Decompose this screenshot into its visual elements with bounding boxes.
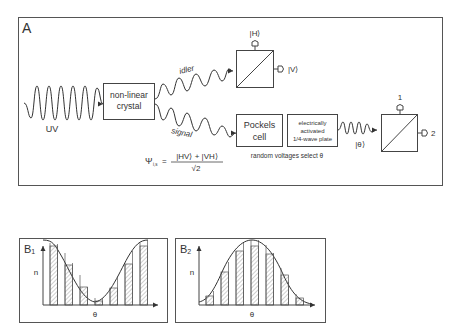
detector-2-icon — [422, 130, 428, 136]
idler-wave — [155, 69, 233, 99]
theta-state-label: |θ⟩ — [355, 140, 365, 149]
pbs1-right-label: |V⟩ — [288, 65, 298, 74]
detector-h-icon — [252, 41, 258, 47]
random-voltages-text: random voltages select θ — [251, 152, 324, 160]
detector-1-icon — [397, 105, 403, 111]
waveplate-label-line2: activated — [300, 128, 324, 134]
pbs1-top-label: |H⟩ — [250, 29, 261, 38]
equation-equals: = — [162, 157, 167, 166]
crystal-label-line2: crystal — [117, 101, 142, 111]
pbs2-right-label: 2 — [431, 129, 436, 138]
waveplate-label-line3: 1/4-wave plate — [293, 136, 333, 142]
uv-label: UV — [46, 124, 59, 134]
equation-numerator: |HV⟩ + |VH⟩ — [176, 152, 218, 161]
crystal-label-line1: non-linear — [110, 90, 148, 100]
signal-label: signal — [171, 126, 194, 139]
panel-b1: B1 n θ — [20, 239, 168, 323]
waveplate-label-line1: electrically — [298, 120, 326, 126]
idler-label: idler — [178, 63, 195, 75]
panel-b1-label: B1 — [24, 243, 35, 255]
equation-denominator: √2 — [192, 164, 201, 173]
figure-canvas: A UV non-linear crystal idler signal |H⟩… — [0, 0, 455, 332]
signal-wave — [155, 104, 236, 137]
equation-psi: Ψ — [145, 156, 153, 166]
panel-a-label: A — [22, 20, 32, 36]
pockels-label-line2: cell — [253, 132, 267, 142]
detector-v-icon — [278, 66, 284, 72]
equation-subscript: i,s — [153, 162, 158, 167]
theta-wave — [338, 122, 377, 134]
b1-histogram-bars — [50, 246, 148, 305]
panel-a: A UV non-linear crystal idler signal |H⟩… — [19, 18, 443, 186]
pockels-label-line1: Pockels — [244, 120, 276, 130]
panel-b2-label: B2 — [180, 243, 191, 255]
entangled-state-equation: Ψ i,s = |HV⟩ + |VH⟩ √2 — [145, 152, 223, 173]
b1-xlabel: θ — [93, 310, 98, 319]
panel-b2: B2 n θ — [176, 239, 326, 323]
b2-xlabel: θ — [250, 310, 255, 319]
b1-ylabel: n — [34, 268, 38, 277]
b2-ylabel: n — [190, 268, 194, 277]
pbs2-top-label: 1 — [398, 93, 403, 102]
uv-wave — [24, 86, 103, 120]
